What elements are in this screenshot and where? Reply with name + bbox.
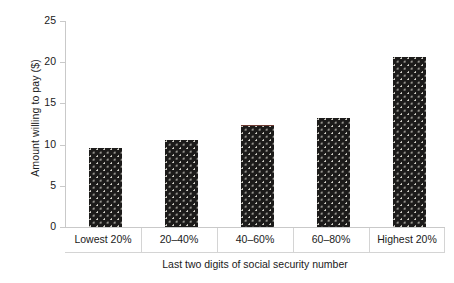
y-axis-tick-label: 20 [18,56,56,67]
x-axis-category-label: 60–80% [293,233,369,245]
y-axis-tick-label: 25 [18,15,56,26]
bar-chart-figure: Amount willing to pay ($) 0510152025 Low… [0,0,454,283]
bar-top-edge [241,125,274,127]
plot-area [65,21,445,227]
bar [241,125,274,227]
x-axis-category-label: Highest 20% [369,233,445,245]
category-separator [293,228,294,252]
category-separator [369,228,370,252]
x-axis-category-label: Lowest 20% [65,233,141,245]
category-separator [444,228,445,252]
category-separator [217,228,218,252]
bar [89,148,122,227]
bar [393,57,426,227]
y-axis-tick-label: 5 [18,180,56,191]
x-axis-category-label: 20–40% [141,233,217,245]
x-axis-category-label: 40–60% [217,233,293,245]
bar [317,118,350,227]
y-axis-tick-label: 10 [18,139,56,150]
bar [165,140,198,227]
category-band-bottom-rule [65,252,445,253]
category-label-band: Lowest 20%20–40%40–60%60–80%Highest 20% [65,228,445,252]
category-separator [141,228,142,252]
y-axis-tick-label: 0 [18,221,56,232]
y-axis-tick-label: 15 [18,97,56,108]
x-axis-title: Last two digits of social security numbe… [65,258,445,270]
